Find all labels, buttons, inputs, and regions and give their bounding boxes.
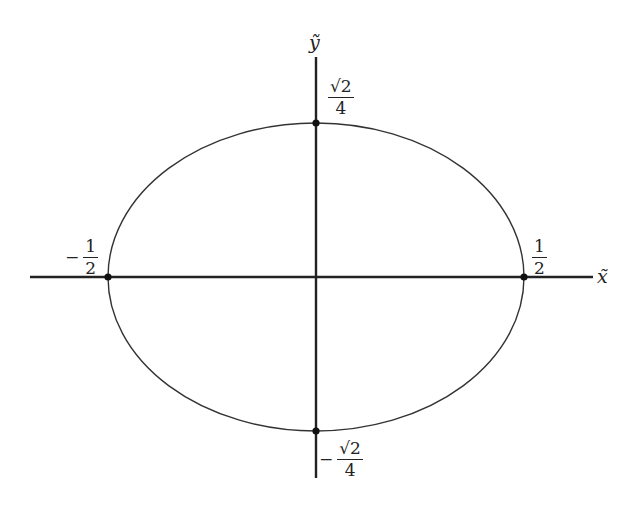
x-axis-label: x̃	[597, 267, 608, 286]
label-top-denominator: 4	[335, 98, 346, 117]
label-right: 1 2	[532, 238, 547, 277]
label-bottom: − √2 4	[319, 440, 363, 479]
label-left: − 1 2	[65, 238, 98, 277]
y-axis-label: ỹ	[309, 33, 320, 52]
label-top: √2 4	[328, 78, 354, 117]
label-right-numerator: 1	[532, 238, 547, 258]
point-left	[104, 273, 111, 280]
point-bottom	[312, 427, 319, 434]
label-right-denominator: 2	[534, 258, 545, 277]
point-right	[520, 273, 527, 280]
label-bottom-sign: −	[319, 451, 333, 468]
label-left-denominator: 2	[85, 258, 96, 277]
label-top-numerator: √2	[328, 78, 354, 98]
label-bottom-denominator: 4	[345, 460, 356, 479]
label-left-numerator: 1	[83, 238, 98, 258]
label-left-sign: −	[65, 249, 79, 266]
label-bottom-numerator: √2	[337, 440, 363, 460]
point-top	[312, 119, 319, 126]
